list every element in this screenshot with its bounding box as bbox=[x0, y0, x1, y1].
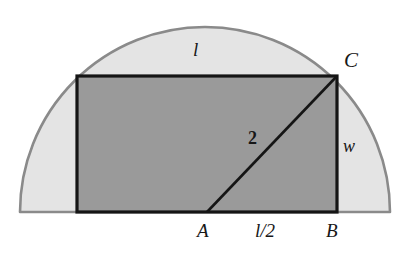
label-vertex-c: C bbox=[344, 50, 358, 71]
label-vertex-b: B bbox=[326, 221, 338, 240]
label-diagonal-length: 2 bbox=[248, 129, 257, 147]
inscribed-rectangle-shape bbox=[77, 76, 337, 212]
label-vertex-a: A bbox=[197, 221, 209, 240]
label-length-l: l bbox=[193, 40, 198, 59]
label-width-w: w bbox=[343, 137, 355, 155]
geometry-figure: l C 2 w A l/2 B bbox=[0, 0, 400, 259]
label-half-length: l/2 bbox=[255, 221, 275, 240]
